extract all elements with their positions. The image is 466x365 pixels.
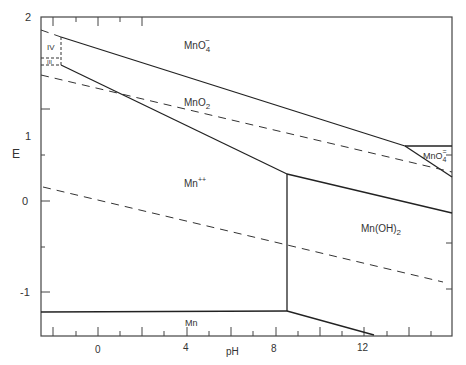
region-label-iv: IV bbox=[47, 43, 55, 52]
y-tick-m1: -1 bbox=[20, 286, 30, 298]
mn2-mn-line bbox=[41, 311, 287, 312]
x-tick-4: 4 bbox=[183, 342, 189, 353]
region-label-mn: Mn bbox=[185, 318, 198, 328]
dashed-lines bbox=[41, 30, 452, 282]
iv-top-dashed bbox=[41, 30, 61, 37]
mno2-mn2-line bbox=[61, 65, 287, 174]
region-label-iii: III bbox=[47, 59, 52, 65]
region-label-mnoh2: Mn(OH)2 bbox=[361, 223, 402, 237]
y-tick-1: 1 bbox=[25, 130, 31, 142]
region-label-mn2plus: Mn++ bbox=[184, 176, 206, 189]
y-tick-2: 2 bbox=[25, 11, 31, 23]
solid-boundaries bbox=[41, 37, 452, 335]
x-tick-8: 8 bbox=[271, 343, 277, 354]
region-label-mno4eq: MnO4= bbox=[423, 148, 447, 163]
x-axis-title: pH bbox=[226, 346, 239, 357]
h2-water-line bbox=[43, 187, 443, 282]
x-axis-ticks bbox=[53, 327, 431, 336]
pourbaix-diagram: 2 1 0 -1 E 0 4 8 12 pH MnO4− MnO2 Mn++ M… bbox=[0, 0, 466, 365]
x-tick-0: 0 bbox=[95, 344, 101, 355]
region-label-mno4: MnO4− bbox=[184, 36, 211, 54]
mno2-mnoh2-line bbox=[287, 174, 452, 213]
plot-frame bbox=[41, 17, 452, 336]
x-tick-12: 12 bbox=[357, 342, 369, 353]
y-axis-title: E bbox=[12, 147, 20, 161]
y-tick-0: 0 bbox=[22, 195, 28, 207]
o2-water-line bbox=[41, 75, 452, 172]
y-axis-ticks bbox=[41, 109, 50, 292]
x-axis-top-ticks bbox=[53, 17, 142, 26]
region-label-mno2: MnO2 bbox=[184, 97, 211, 111]
mnoh2-mn-line bbox=[287, 311, 374, 335]
